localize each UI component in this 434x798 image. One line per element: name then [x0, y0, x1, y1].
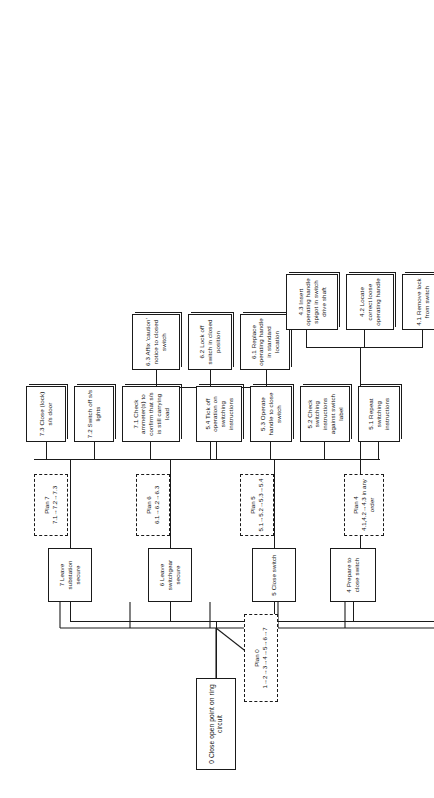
node-5-4[interactable]: 5.4 Tick off operation on switching inst… — [196, 386, 242, 442]
stub-4-2 — [364, 330, 365, 348]
diagram-viewport: 0 Close open point on ring circuit Plan … — [0, 0, 434, 798]
stub-7 — [70, 602, 71, 622]
node-7[interactable]: 7 Leave substation secure — [48, 548, 92, 602]
plan-0-text: 1→2→3→4→5→6→7 — [261, 627, 269, 688]
node-4-2[interactable]: 4.2 Locate correct loose operating handl… — [346, 274, 394, 330]
node-6-1[interactable]: 6.1 Replace operating handle in standard… — [240, 314, 290, 370]
node-6-2[interactable]: 6.2 Lock off switch in closed position — [188, 314, 232, 370]
stub-4-1 — [422, 330, 423, 348]
node-7-3[interactable]: 7.3 Close (lock) s/s door — [26, 386, 66, 442]
plan-5: Plan 5 5.1→5.2→5.3→5.4 — [240, 474, 274, 536]
node-5[interactable]: 5 Close switch — [252, 548, 296, 602]
plan-4-text: 4.1,4.2→4.3 in any order — [360, 477, 376, 533]
plan-6-name: Plan 6 — [145, 496, 153, 514]
lead-g6 — [170, 460, 171, 548]
node-4-3[interactable]: 4.3 Insert operating handle spigot in sw… — [286, 274, 338, 330]
stub-4 — [353, 602, 354, 622]
plan-0-name: Plan 0 — [253, 649, 261, 667]
plan-7: Plan 7 7.1→7.2→7.3 — [34, 474, 68, 536]
lead-g7 — [70, 460, 71, 548]
node-5-2[interactable]: 5.2 Check switching instructions against… — [300, 386, 350, 442]
spine-g7-low — [94, 459, 152, 460]
plan-6: Plan 6 6.1→6.2→6.3 — [136, 474, 170, 536]
node-5-1[interactable]: 5.1 Repeat switching instructions — [358, 386, 400, 442]
stub-5-3 — [270, 442, 271, 460]
node-5-3[interactable]: 5.3 Operate handle to close switch — [250, 386, 292, 442]
plan-4-name: Plan 4 — [352, 496, 360, 514]
stub-7-2 — [94, 442, 95, 460]
node-4-1[interactable]: 4.1 Remove lock from switch — [402, 274, 434, 330]
plan-7-text: 7.1→7.2→7.3 — [51, 486, 59, 524]
plan-4: Plan 4 4.1,4.2→4.3 in any order — [344, 474, 384, 536]
plan-6-text: 6.1→6.2→6.3 — [153, 486, 161, 524]
plan-7-name: Plan 7 — [43, 496, 51, 514]
node-6-3[interactable]: 6.3 Affix 'caution' notice to closed swi… — [132, 314, 180, 370]
stub-7-3 — [46, 442, 47, 460]
stub-5-2 — [324, 442, 325, 460]
lead-g5 — [274, 460, 275, 548]
node-4[interactable]: 4 Prepare to close switch — [330, 548, 376, 602]
plan-0: Plan 0 1→2→3→4→5→6→7 — [244, 614, 278, 702]
root-stem — [216, 622, 217, 678]
stub-6 — [170, 602, 171, 622]
node-7-2[interactable]: 7.2 Switch off s/s lights — [74, 386, 114, 442]
plan-5-name: Plan 5 — [249, 496, 257, 514]
plan-5-text: 5.1→5.2→5.3→5.4 — [257, 479, 265, 532]
spine-g5b — [216, 459, 380, 460]
stub-5-4 — [216, 442, 217, 460]
stub-7-1 — [150, 442, 151, 460]
hta-diagram-canvas: 0 Close open point on ring circuit Plan … — [0, 0, 434, 798]
node-6[interactable]: 6 Leave switchgear secure — [148, 548, 192, 602]
node-root[interactable]: 0 Close open point on ring circuit — [196, 678, 236, 770]
node-7-1[interactable]: 7.1 Check ammeter(s) to confirm that s/s… — [122, 386, 180, 442]
stub-5-1 — [378, 442, 379, 460]
stub-4-3 — [306, 330, 307, 348]
